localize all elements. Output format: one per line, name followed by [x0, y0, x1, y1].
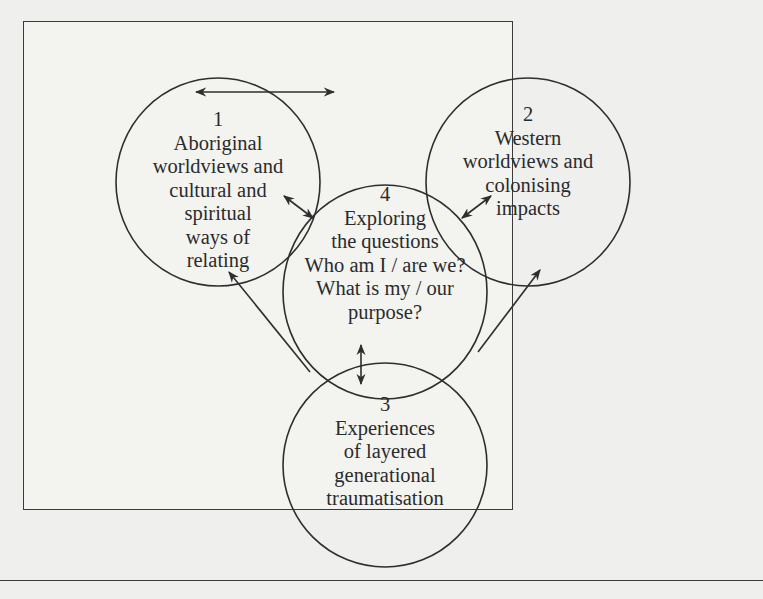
node-4-line: What is my / our	[285, 277, 485, 301]
node-2-line: Western	[428, 127, 628, 151]
node-3-label: 3 Experiences of layered generational tr…	[285, 393, 485, 511]
node-1-line: worldviews and	[118, 155, 318, 179]
node-4-line: purpose?	[285, 301, 485, 325]
node-4-label: 4 Exploring the questions Who am I / are…	[285, 183, 485, 324]
node-3-line: generational	[285, 464, 485, 488]
node-3-line: Experiences	[285, 417, 485, 441]
node-3-line: traumatisation	[285, 487, 485, 511]
node-4-line: the questions	[285, 230, 485, 254]
node-2-number: 2	[428, 103, 628, 127]
node-2-line: worldviews and	[428, 150, 628, 174]
node-4-line: Exploring	[285, 207, 485, 231]
node-3-line: of layered	[285, 440, 485, 464]
node-1-number: 1	[118, 108, 318, 132]
node-4-line: Who am I / are we?	[285, 254, 485, 278]
node-3-number: 3	[285, 393, 485, 417]
node-1-line: Aboriginal	[118, 132, 318, 156]
node-4-number: 4	[285, 183, 485, 207]
